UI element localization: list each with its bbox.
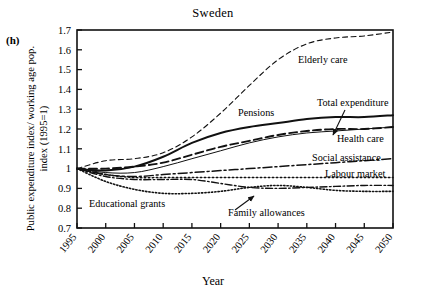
series-annotation-total-expenditure: Total expenditure: [317, 97, 389, 108]
series-annotation-social-assistance: Social assistance: [312, 152, 381, 163]
series-annotation-family-allowances: Family allowances: [228, 207, 305, 218]
x-axis-tick-label: 2005: [114, 231, 136, 254]
series-annotation-elderly-care: Elderly care: [298, 54, 348, 65]
x-axis-tick-label: 2015: [172, 231, 194, 254]
plot-canvas: 0.70.80.911.11.21.31.41.51.61.7199520002…: [0, 0, 426, 298]
y-axis-tick-label: 0.8: [58, 203, 71, 214]
leader-arrow-total-expenditure: [333, 110, 345, 135]
series-annotation-pensions: Pensions: [238, 107, 274, 118]
y-axis-tick-label: 1.7: [58, 25, 71, 36]
y-axis-tick-label: 0.9: [58, 183, 71, 194]
x-axis-tick-label: 2025: [229, 231, 251, 254]
y-axis-tick-label: 1.4: [58, 84, 72, 95]
y-axis-tick-label: 1.3: [58, 104, 71, 115]
series-annotation-health-care: Health care: [337, 133, 384, 144]
y-axis-tick-label: 1: [66, 163, 71, 174]
series-annotation-labour-market: Labour market: [325, 168, 385, 179]
y-axis-tick-label: 1.1: [58, 144, 71, 155]
y-axis-tick-label: 1.2: [58, 124, 71, 135]
x-axis-tick-label: 2010: [143, 231, 165, 254]
series-annotation-educational-grants: Educational grants: [89, 198, 165, 209]
x-axis-tick-label: 2020: [201, 231, 223, 254]
y-axis-tick-label: 1.5: [58, 64, 71, 75]
x-axis-tick-label: 2040: [316, 231, 338, 254]
x-axis-tick-label: 2035: [287, 231, 309, 254]
x-axis-tick-label: 2045: [344, 231, 366, 254]
chart-figure: (h) Sweden Public expenditure index/ wor…: [0, 0, 426, 298]
x-axis-tick-label: 2030: [258, 231, 280, 254]
x-axis-tick-label: 2000: [86, 231, 108, 254]
y-axis-tick-label: 1.6: [58, 45, 71, 56]
x-axis-tick-label: 2050: [373, 231, 395, 254]
x-axis-tick-label: 1995: [57, 231, 79, 254]
